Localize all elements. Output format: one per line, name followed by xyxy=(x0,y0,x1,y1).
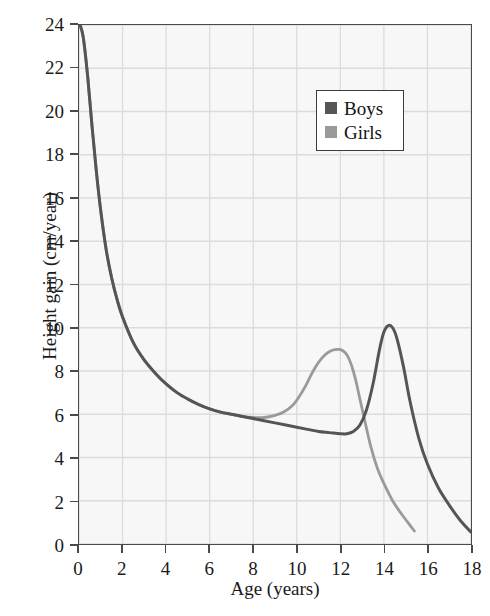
x-tick-label: 4 xyxy=(161,559,171,578)
growth-velocity-chart: 024681012141618202224 024681012141618 He… xyxy=(0,0,490,616)
y-tick-mark xyxy=(70,23,78,25)
y-tick-label: 24 xyxy=(16,15,64,34)
x-tick-mark xyxy=(252,545,254,553)
x-tick-label: 2 xyxy=(117,559,127,578)
x-tick-mark xyxy=(340,545,342,553)
legend-label-boys: Boys xyxy=(344,99,383,118)
y-tick-mark xyxy=(70,240,78,242)
x-tick-label: 6 xyxy=(205,559,215,578)
chart-legend: Boys Girls xyxy=(316,90,404,151)
y-tick-mark xyxy=(70,370,78,372)
x-tick-label: 10 xyxy=(287,559,306,578)
x-tick-mark xyxy=(427,545,429,553)
x-tick-label: 0 xyxy=(73,559,83,578)
y-tick-mark xyxy=(70,67,78,69)
legend-label-girls: Girls xyxy=(344,123,382,142)
x-tick-label: 12 xyxy=(331,559,350,578)
x-tick-mark xyxy=(471,545,473,553)
x-tick-mark xyxy=(208,545,210,553)
y-tick-mark xyxy=(70,457,78,459)
legend-entry-girls: Girls xyxy=(325,120,395,144)
y-axis-title: Height gain (cm/year) xyxy=(39,76,61,476)
curve-boys xyxy=(80,25,471,532)
y-tick-mark xyxy=(70,284,78,286)
y-tick-mark xyxy=(70,501,78,503)
x-tick-label: 16 xyxy=(419,559,438,578)
x-tick-mark xyxy=(384,545,386,553)
data-curves xyxy=(79,25,471,544)
y-tick-mark xyxy=(70,327,78,329)
y-tick-label: 2 xyxy=(16,492,64,511)
legend-swatch-boys-icon xyxy=(325,102,337,114)
legend-entry-boys: Boys xyxy=(325,96,395,120)
y-tick-mark xyxy=(70,197,78,199)
legend-swatch-girls-icon xyxy=(325,126,337,138)
x-tick-label: 14 xyxy=(375,559,394,578)
y-tick-mark xyxy=(70,110,78,112)
x-tick-label: 18 xyxy=(463,559,482,578)
x-axis-title: Age (years) xyxy=(78,578,472,600)
y-tick-label: 0 xyxy=(16,536,64,555)
x-tick-mark xyxy=(296,545,298,553)
y-tick-mark xyxy=(70,153,78,155)
x-tick-label: 8 xyxy=(248,559,258,578)
x-tick-mark xyxy=(165,545,167,553)
plot-area xyxy=(78,24,472,545)
x-tick-mark xyxy=(121,545,123,553)
x-tick-mark xyxy=(77,545,79,553)
y-tick-mark xyxy=(70,414,78,416)
y-tick-label: 22 xyxy=(16,58,64,77)
